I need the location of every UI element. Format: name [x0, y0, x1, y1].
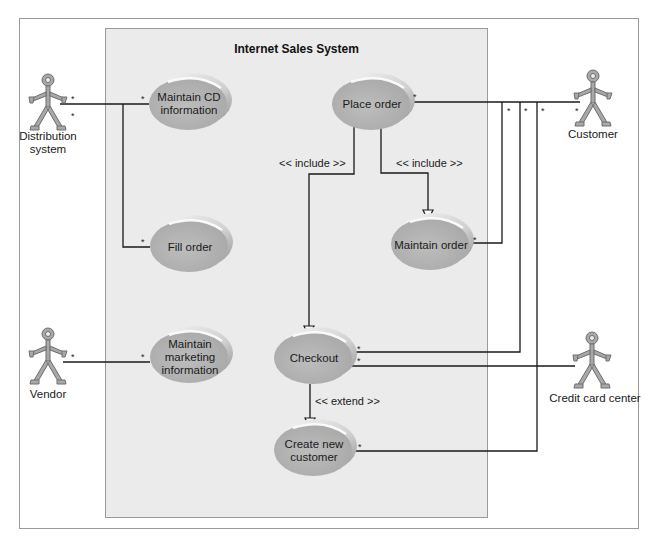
use-case-maintain-marketing[interactable]: Maintain marketing information	[152, 334, 228, 380]
use-case-checkout[interactable]: Checkout	[274, 342, 354, 374]
extend-label-create-customer: << extend >>	[315, 395, 380, 407]
multiplicity-maintain-order: *	[473, 236, 477, 245]
multiplicity-fill-order: *	[141, 238, 145, 247]
actor-distribution-system-label: Distribution system	[8, 130, 88, 156]
actor-customer-icon[interactable]	[574, 70, 612, 126]
multiplicity-create-customer: *	[358, 443, 362, 452]
actor-vendor-label: Vendor	[8, 388, 88, 401]
include-label-maintain-order: << include >>	[396, 157, 463, 169]
use-case-maintain-cd[interactable]: Maintain CD information	[149, 88, 229, 120]
actor-vendor-icon[interactable]	[29, 328, 67, 384]
actor-customer-label: Customer	[553, 128, 633, 141]
multiplicity-customer-4: *	[575, 107, 579, 116]
include-place-order-maintain-order	[381, 127, 428, 213]
multiplicity-distribution-2: *	[71, 112, 75, 121]
multiplicity-maintain-cd: *	[141, 95, 145, 104]
multiplicity-customer-1: *	[507, 107, 511, 116]
use-case-place-order[interactable]: Place order	[332, 88, 412, 120]
include-label-checkout: << include >>	[279, 157, 346, 169]
multiplicity-distribution-1: *	[71, 95, 75, 104]
multiplicity-customer-3: *	[541, 107, 545, 116]
use-case-maintain-order[interactable]: Maintain order	[388, 229, 474, 261]
multiplicity-customer-2: *	[524, 107, 528, 116]
multiplicity-maintain-marketing: *	[141, 353, 145, 362]
assoc-distribution-fill-order	[123, 104, 150, 247]
actor-distribution-system-icon[interactable]	[29, 74, 67, 130]
actor-credit-card-center-icon[interactable]	[573, 332, 611, 388]
assoc-customer-maintain-order	[468, 102, 502, 243]
actor-credit-card-center-label: Credit card center	[545, 392, 645, 405]
use-case-fill-order[interactable]: Fill order	[150, 231, 230, 263]
use-case-create-new-customer[interactable]: Create new customer	[276, 435, 352, 467]
multiplicity-vendor: *	[71, 353, 75, 362]
multiplicity-checkout-1: *	[357, 345, 361, 354]
multiplicity-place-order: *	[413, 93, 417, 102]
multiplicity-checkout-2: *	[357, 357, 361, 366]
